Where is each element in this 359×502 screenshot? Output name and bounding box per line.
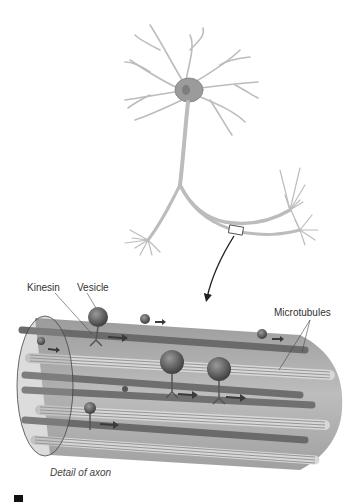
label-microtubules: Microtubules: [274, 307, 331, 318]
axon-detail-box: [228, 225, 243, 235]
caption-detail-of-axon: Detail of axon: [50, 467, 111, 478]
pointer-arrow: [207, 236, 234, 298]
axon-cylinder: [17, 293, 342, 470]
figure-corner-mark: [14, 495, 23, 502]
label-vesicle: Vesicle: [77, 282, 109, 293]
neuron-diagram: [0, 0, 359, 502]
neuron: [125, 25, 318, 255]
label-kinesin: Kinesin: [27, 282, 60, 293]
